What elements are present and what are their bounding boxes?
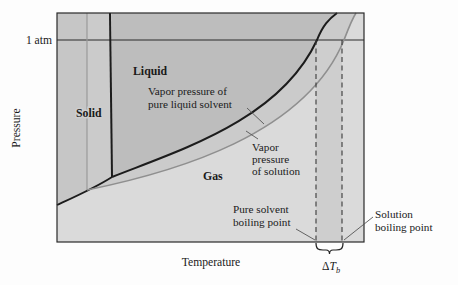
solution-vp-annotation-line3: of solution — [252, 165, 301, 177]
liquid-region-label: Liquid — [133, 64, 168, 78]
solution-vp-annotation-line2: pressure — [252, 153, 289, 165]
delta-tb-label: ΔTb — [322, 260, 340, 275]
phase-diagram-figure: 1 atm Pressure Temperature Liquid Solid … — [0, 0, 458, 285]
delta-tb-band-fill — [316, 40, 342, 242]
temperature-axis-label: Temperature — [182, 256, 240, 269]
solution-bp-annotation-line1: Solution — [375, 208, 413, 220]
region-fills — [57, 13, 364, 242]
pure-vp-annotation-line1: Vapor pressure of — [148, 85, 227, 97]
solution-bp-annotation-line2: boiling point — [375, 221, 433, 233]
gas-region-label: Gas — [203, 169, 223, 183]
delta-tb-brace — [316, 243, 343, 254]
pure-vp-annotation-line2: pure liquid solvent — [148, 98, 233, 110]
pure-bp-annotation-line1: Pure solvent — [233, 203, 290, 215]
pressure-axis-label: Pressure — [10, 108, 23, 147]
pure-bp-annotation-line2: boiling point — [233, 216, 291, 228]
delta-subscript-b: b — [336, 266, 340, 275]
one-atm-label: 1 atm — [26, 34, 52, 47]
solution-vp-annotation-line1: Vapor — [252, 141, 279, 153]
solid-region-label: Solid — [76, 106, 102, 120]
phase-diagram-canvas: 1 atm Pressure Temperature Liquid Solid … — [0, 0, 458, 285]
